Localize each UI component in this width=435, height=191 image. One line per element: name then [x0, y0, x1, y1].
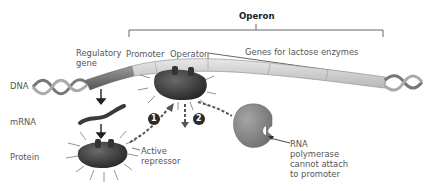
active-repressor — [66, 131, 138, 182]
protein-label: Protein — [10, 152, 39, 162]
regulatory-gene-segment — [86, 66, 134, 90]
active-repressor-label: Active repressor — [141, 146, 181, 166]
step-1-number: 1 — [151, 114, 157, 124]
operator-label: Operator — [170, 49, 208, 59]
polymerase-pointer — [268, 136, 290, 143]
genes-lactose-label: Genes for lactose enzymes — [245, 47, 358, 57]
promoter-label: Promoter — [126, 49, 164, 59]
expression-arrows — [97, 89, 105, 138]
diagram-graphics — [0, 0, 435, 191]
dna-helix-left — [33, 80, 88, 94]
regulatory-gene-label: Regulatory gene — [76, 48, 116, 68]
step-2-arrow — [181, 104, 189, 128]
dna-helix-right — [385, 76, 422, 90]
lac-operon-diagram: 1 2 Operon Regulatory gene Promoter Oper… — [0, 0, 435, 191]
operon-bracket — [129, 24, 383, 37]
mrna-label: mRNA — [10, 117, 36, 127]
dna-label: DNA — [10, 81, 28, 91]
operon-title: Operon — [239, 11, 275, 21]
rna-polymerase-label: RNA polymerase cannot attach to promoter — [290, 139, 356, 179]
polymerase-blocked-line — [198, 102, 232, 116]
mrna-strand — [80, 106, 124, 123]
active-repressor-pointer — [132, 148, 140, 150]
step-2-number: 2 — [196, 114, 202, 124]
rna-polymerase — [233, 104, 272, 148]
